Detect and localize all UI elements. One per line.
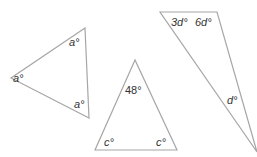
angle-label-6d: 6d° (195, 16, 212, 28)
angle-label-3d: 3d° (171, 16, 188, 28)
triangle-shape (160, 12, 257, 152)
angle-label-c-right: c° (156, 136, 167, 148)
triangle-scalene: 3d° 6d° d° (160, 12, 257, 152)
angle-label-a-bottom: a° (74, 98, 85, 110)
angle-label-a-top: a° (69, 36, 80, 48)
triangles-diagram: a° a° a° 48° c° c° 3d° 6d° d° (0, 0, 257, 157)
triangle-isosceles: 48° c° c° (95, 60, 177, 150)
angle-label-a-left: a° (13, 72, 24, 84)
triangle-equilateral: a° a° a° (11, 28, 89, 118)
angle-label-c-left: c° (104, 136, 115, 148)
angle-label-d: d° (227, 94, 238, 106)
angle-label-48: 48° (125, 84, 142, 96)
